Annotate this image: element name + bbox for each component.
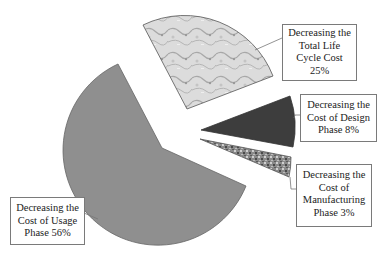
label-total-life-cycle: Decreasing the Total Life Cycle Cost 25% bbox=[282, 24, 357, 81]
label-line: Cycle Cost bbox=[284, 52, 355, 65]
slice-total-life-cycle bbox=[143, 15, 273, 109]
label-manufacturing-phase: Decreasing the Cost of Manufacturing Pha… bbox=[296, 164, 372, 227]
label-line: Phase 56% bbox=[12, 227, 83, 240]
label-line: Total Life bbox=[284, 40, 355, 53]
label-line: Manufacturing bbox=[298, 194, 370, 207]
label-usage-phase: Decreasing the Cost of Usage Phase 56% bbox=[10, 197, 85, 245]
pie-chart: Decreasing the Total Life Cycle Cost 25%… bbox=[0, 0, 384, 255]
label-line: Cost of bbox=[298, 182, 370, 195]
label-line: Decreasing the bbox=[12, 202, 83, 215]
label-line: Decreasing the bbox=[302, 99, 375, 112]
label-line: Phase 8% bbox=[302, 124, 375, 137]
label-line: Phase 3% bbox=[298, 207, 370, 220]
label-line: Cost of Design bbox=[302, 112, 375, 125]
label-design-phase: Decreasing the Cost of Design Phase 8% bbox=[300, 94, 377, 142]
label-line: Cost of Usage bbox=[12, 215, 83, 228]
label-line: Decreasing the bbox=[284, 27, 355, 40]
label-line: 25% bbox=[284, 65, 355, 78]
slice-design-phase bbox=[201, 96, 295, 147]
leader-line-total-life bbox=[255, 38, 282, 50]
label-line: Decreasing the bbox=[298, 169, 370, 182]
